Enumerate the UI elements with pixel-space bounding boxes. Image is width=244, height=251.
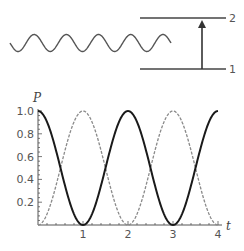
arrow-head-icon — [198, 20, 206, 28]
series-p1-solid — [38, 111, 218, 225]
y-axis-label: P — [32, 91, 42, 105]
level-2-label: 2 — [229, 12, 236, 25]
energy-level-diagram: 2 1 — [10, 12, 236, 76]
y-tick-label: 0.6 — [17, 151, 35, 164]
y-tick-label: 0.4 — [17, 173, 35, 186]
light-wave — [10, 35, 171, 52]
y-tick-label: 1.0 — [17, 105, 35, 118]
level-1-label: 1 — [229, 63, 236, 76]
y-tick-label: 0.2 — [17, 196, 35, 209]
y-tick-label: 0.8 — [17, 128, 35, 141]
axes: 12340.20.40.60.81.0 — [17, 105, 223, 241]
population-chart: 12340.20.40.60.81.0 P t — [17, 91, 232, 241]
x-tick-label: 3 — [170, 228, 177, 241]
series-p2-dashed — [38, 111, 218, 225]
x-axis-label: t — [226, 219, 231, 233]
x-tick-label: 4 — [215, 228, 222, 241]
x-tick-label: 1 — [80, 228, 87, 241]
figure: 2 1 12340.20.40.60.81.0 P t — [0, 0, 244, 251]
x-tick-label: 2 — [125, 228, 132, 241]
